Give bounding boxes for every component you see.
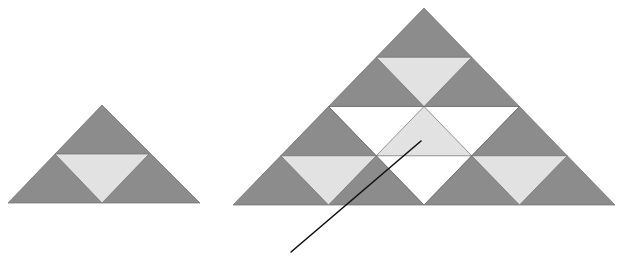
figure-root: [0, 0, 623, 265]
stage-2-triangle-group: [233, 8, 615, 205]
figure-caption: [0, 256, 623, 265]
fractal-triangle-diagram: [0, 0, 623, 265]
stage-1-triangle-group: [8, 105, 200, 203]
